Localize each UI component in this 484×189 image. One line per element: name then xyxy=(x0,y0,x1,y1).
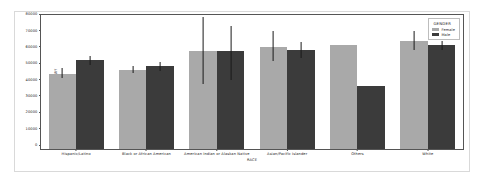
bar-male xyxy=(76,60,103,149)
bar-female xyxy=(49,74,76,149)
plot-area xyxy=(41,15,463,149)
y-tick: 60000 xyxy=(26,45,41,49)
x-tick-mark xyxy=(216,149,217,151)
y-tick: 30000 xyxy=(26,94,41,98)
bar-male xyxy=(287,50,314,149)
x-tick: Asian/Pacific Islander xyxy=(267,149,307,156)
error-bar xyxy=(441,41,442,50)
x-tick: American Indian or Alaskan Native xyxy=(184,149,249,156)
error-bar xyxy=(300,42,301,58)
y-tick-label: 20000 xyxy=(26,110,39,114)
y-tick-label: 60000 xyxy=(26,45,39,49)
y-tick-label: 80000 xyxy=(26,12,39,16)
bar-group xyxy=(49,15,104,149)
x-tick-mark xyxy=(76,149,77,151)
x-tick-label: Hispanic/Latino xyxy=(62,152,91,156)
bar-male xyxy=(146,66,173,149)
x-tick: White xyxy=(422,149,433,156)
legend-swatch-icon xyxy=(432,28,439,31)
legend-title: GENDER xyxy=(432,21,455,26)
bar-female xyxy=(330,45,357,149)
x-tick-label: Black or African American xyxy=(122,152,171,156)
bar-group xyxy=(189,15,244,149)
legend-item[interactable]: Female xyxy=(432,28,455,32)
x-tick-mark xyxy=(146,149,147,151)
bar-group xyxy=(330,15,385,149)
y-tick: 80000 xyxy=(26,12,41,16)
x-tick-mark xyxy=(357,149,358,151)
bar-female xyxy=(260,47,287,149)
chart-figure: BASE_SALARY 0100002000030000400005000060… xyxy=(0,0,484,189)
y-tick: 70000 xyxy=(26,29,41,33)
y-tick: 10000 xyxy=(26,127,41,131)
y-tick-label: 10000 xyxy=(26,127,39,131)
y-tick-label: 30000 xyxy=(26,94,39,98)
error-bar xyxy=(62,68,63,78)
legend-item[interactable]: Male xyxy=(432,33,455,37)
x-tick-label: Asian/Pacific Islander xyxy=(267,152,307,156)
error-bar xyxy=(132,66,133,73)
y-tick-label: 40000 xyxy=(26,78,39,82)
bar-female xyxy=(400,41,427,149)
x-tick-mark xyxy=(427,149,428,151)
bar-male xyxy=(428,45,455,149)
error-bar xyxy=(203,17,204,83)
legend: GENDER FemaleMale xyxy=(428,18,460,40)
legend-entries: FemaleMale xyxy=(432,28,455,37)
x-tick-label: American Indian or Alaskan Native xyxy=(184,152,249,156)
error-bar xyxy=(273,31,274,61)
bar-female xyxy=(119,70,146,149)
x-tick: Others xyxy=(351,149,364,156)
y-tick: 50000 xyxy=(26,61,41,65)
legend-swatch-icon xyxy=(432,33,439,36)
x-tick-label: White xyxy=(422,152,433,156)
x-tick: Hispanic/Latino xyxy=(62,149,91,156)
y-tick: 20000 xyxy=(26,110,41,114)
bar-group xyxy=(119,15,174,149)
x-tick-mark xyxy=(287,149,288,151)
error-bar xyxy=(414,31,415,50)
y-tick-label: 70000 xyxy=(26,29,39,33)
x-axis-label: RACE xyxy=(247,158,257,162)
error-bar xyxy=(89,56,90,65)
y-tick: 40000 xyxy=(26,78,41,82)
x-tick: Black or African American xyxy=(122,149,171,156)
bar-male xyxy=(357,86,384,149)
error-bar xyxy=(230,26,231,80)
x-tick-label: Others xyxy=(351,152,364,156)
plot-axes: BASE_SALARY 0100002000030000400005000060… xyxy=(40,14,464,150)
error-bar xyxy=(160,62,161,71)
y-tick-label: 50000 xyxy=(26,61,39,65)
legend-label: Male xyxy=(441,33,450,37)
bar-group xyxy=(260,15,315,149)
legend-label: Female xyxy=(441,28,455,32)
